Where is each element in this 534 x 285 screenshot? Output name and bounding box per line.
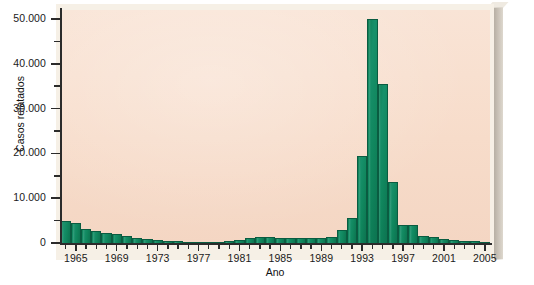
x-tick-label: 1973 — [146, 252, 170, 264]
x-tick-label: 1965 — [64, 252, 88, 264]
x-tick-major — [361, 244, 362, 251]
x-tick-major — [198, 244, 199, 251]
bar — [388, 182, 398, 243]
bar — [112, 234, 122, 243]
y-tick-minor — [54, 85, 60, 87]
x-tick-minor — [392, 244, 393, 249]
y-tick-major — [51, 153, 60, 155]
x-tick-minor — [300, 244, 301, 249]
y-tick-major — [51, 18, 60, 20]
x-tick-minor — [106, 244, 107, 249]
x-tick-major — [443, 244, 444, 251]
x-tick-minor — [65, 244, 66, 249]
x-tick-major — [239, 244, 240, 251]
x-tick-minor — [85, 244, 86, 249]
x-tick-minor — [372, 244, 373, 249]
bar — [378, 84, 388, 243]
bar — [71, 223, 81, 243]
plot-area-background — [60, 10, 490, 244]
bar — [91, 231, 101, 243]
x-tick-label: 1969 — [105, 252, 129, 264]
y-tick-label: 0 — [0, 236, 46, 248]
bar — [398, 225, 408, 243]
x-tick-minor — [351, 244, 352, 249]
x-tick-minor — [137, 244, 138, 249]
y-axis-title: Casos relatados — [14, 54, 26, 174]
x-tick-label: 1989 — [309, 252, 333, 264]
bar — [61, 221, 71, 243]
x-tick-minor — [454, 244, 455, 249]
x-tick-minor — [423, 244, 424, 249]
x-tick-minor — [269, 244, 270, 249]
bar — [337, 230, 347, 243]
y-tick-major — [51, 197, 60, 199]
y-axis-line — [60, 8, 62, 244]
x-tick-major — [157, 244, 158, 251]
bar — [122, 236, 132, 243]
y-tick-major — [51, 63, 60, 65]
x-tick-minor — [249, 244, 250, 249]
y-tick-minor — [54, 41, 60, 43]
x-tick-minor — [310, 244, 311, 249]
y-tick-minor — [54, 220, 60, 222]
y-tick-minor — [54, 130, 60, 132]
x-tick-label: 1981 — [228, 252, 252, 264]
x-tick-label: 1985 — [268, 252, 292, 264]
x-tick-major — [116, 244, 117, 251]
x-tick-minor — [464, 244, 465, 249]
x-tick-minor — [126, 244, 127, 249]
x-tick-major — [484, 244, 485, 251]
x-tick-minor — [218, 244, 219, 249]
x-tick-minor — [147, 244, 148, 249]
x-tick-minor — [474, 244, 475, 249]
y-tick-major — [51, 108, 60, 110]
x-tick-minor — [96, 244, 97, 249]
x-tick-minor — [433, 244, 434, 249]
x-tick-label: 2005 — [473, 252, 497, 264]
bar — [357, 156, 367, 243]
bar — [347, 218, 357, 243]
x-tick-major — [321, 244, 322, 251]
bar — [101, 233, 111, 243]
x-tick-minor — [413, 244, 414, 249]
x-tick-minor — [341, 244, 342, 249]
y-tick-major — [51, 242, 60, 244]
x-axis-line — [60, 243, 492, 245]
x-axis-title: Ano — [60, 266, 490, 278]
x-tick-label: 1993 — [350, 252, 374, 264]
y-tick-label: 50.000 — [0, 12, 46, 24]
x-tick-major — [280, 244, 281, 251]
x-tick-minor — [229, 244, 230, 249]
x-tick-minor — [177, 244, 178, 249]
bar — [367, 19, 377, 243]
chart-figure: 010.00020.00030.00040.00050.000 19651969… — [0, 0, 534, 285]
bar — [408, 225, 418, 243]
x-tick-major — [402, 244, 403, 251]
x-tick-minor — [259, 244, 260, 249]
x-tick-label: 2001 — [432, 252, 456, 264]
x-tick-minor — [208, 244, 209, 249]
y-tick-minor — [54, 175, 60, 177]
x-tick-minor — [188, 244, 189, 249]
x-tick-label: 1997 — [391, 252, 415, 264]
x-tick-minor — [331, 244, 332, 249]
x-tick-minor — [290, 244, 291, 249]
x-tick-minor — [382, 244, 383, 249]
x-tick-minor — [167, 244, 168, 249]
y-tick-label: 10.000 — [0, 191, 46, 203]
bar — [81, 229, 91, 243]
x-tick-label: 1977 — [187, 252, 211, 264]
bar — [418, 236, 428, 243]
x-tick-major — [75, 244, 76, 251]
